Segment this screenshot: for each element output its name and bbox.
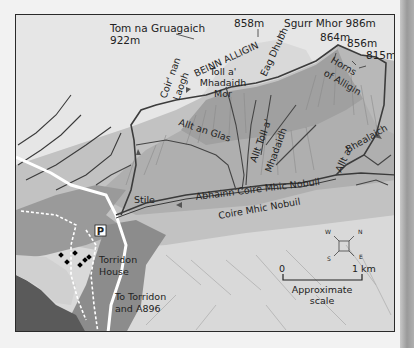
peak-858-height: 858m	[234, 17, 264, 29]
label-stile: Stile	[134, 194, 155, 205]
peak-tom-na-gruagaich-height: 922m	[110, 34, 140, 46]
scale-caption-line2: scale	[310, 295, 335, 306]
scale-end: 1 km	[352, 263, 376, 274]
peak-tom-na-gruagaich-name: Tom na Gruagaich	[109, 22, 205, 34]
peak-sgurr-mhor-label: Sgurr Mhor 986m	[284, 17, 376, 29]
compass-w: W	[325, 228, 331, 235]
compass-e: E	[359, 253, 363, 260]
label-to-torridon-line2: and A896	[115, 303, 161, 314]
parking-label: P	[97, 226, 104, 237]
label-torridon-house-line2: House	[99, 266, 129, 277]
peak-815-height: 815m	[366, 49, 395, 61]
label-toll-line2: Mhadaidh	[200, 77, 247, 88]
label-torridon-house-line1: Torridon	[98, 254, 137, 265]
page-gutter	[400, 0, 414, 348]
label-to-torridon-line1: To Torridon	[114, 291, 166, 302]
compass-n: N	[358, 228, 363, 235]
label-toll-line3: Mor	[214, 88, 232, 99]
label-toll-line1: Toll a'	[209, 66, 237, 77]
scale-caption-line1: Approximate	[292, 284, 353, 295]
peak-856-height: 856m	[347, 37, 377, 49]
scale-start: 0	[279, 263, 285, 274]
route-map: P Tom na Gruagaich 922m 858m Sgurr Mhor …	[15, 14, 395, 332]
peak-864-height: 864m	[320, 31, 350, 43]
compass-s: S	[327, 255, 331, 262]
map-canvas: P Tom na Gruagaich 922m 858m Sgurr Mhor …	[16, 15, 395, 332]
